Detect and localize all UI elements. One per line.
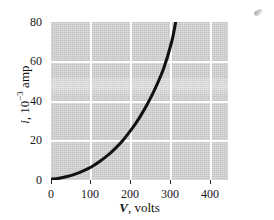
- y-axis-label-mid: , 10: [17, 101, 32, 121]
- data-curve: [51, 22, 228, 180]
- xtick-label-200: 200: [110, 188, 150, 200]
- xtick-mark-400: [210, 180, 211, 184]
- y-axis-label-suffix: amp: [17, 65, 32, 91]
- ytick-label-0: 0: [2, 174, 42, 186]
- xtick-mark-300: [170, 180, 171, 184]
- xtick-label-0: 0: [31, 188, 71, 200]
- figure-root: 80 60 40 20 0 0 100 200 300 400 i, 10−3 …: [0, 0, 274, 220]
- scan-speck-artifact: [253, 8, 263, 17]
- xtick-mark-0: [51, 180, 52, 184]
- x-axis-label-variable: V: [119, 200, 128, 215]
- y-axis-label: i, 10−3 amp: [15, 25, 32, 165]
- x-axis-label: V, volts: [51, 200, 228, 216]
- xtick-label-100: 100: [70, 188, 110, 200]
- xtick-label-300: 300: [150, 188, 190, 200]
- xtick-mark-100: [90, 180, 91, 184]
- x-axis-label-rest: , volts: [128, 200, 160, 215]
- y-axis-label-exponent: −3: [15, 91, 25, 101]
- xtick-label-400: 400: [190, 188, 230, 200]
- plot-area: [51, 22, 228, 180]
- y-axis-label-variable: i: [17, 120, 32, 124]
- xtick-mark-200: [130, 180, 131, 184]
